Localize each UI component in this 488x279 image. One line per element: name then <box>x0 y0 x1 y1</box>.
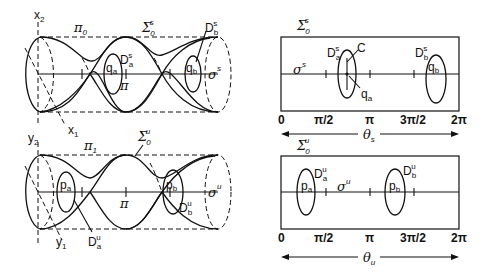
qa-point <box>345 72 348 75</box>
tick-label-0: 0 <box>278 113 285 127</box>
top-left-cylinder: x2 x1 π0 Σ0s Das Dbs qa qb π σs <box>25 8 231 139</box>
tick-label-2pi: 2π <box>451 231 467 245</box>
disk-a-label: Das <box>327 44 341 62</box>
qa-label: qa <box>106 61 118 76</box>
disk-b-label: Dbs <box>415 44 429 62</box>
figure: x2 x1 π0 Σ0s Das Dbs qa qb π σs <box>0 0 488 279</box>
curve-c-label: C <box>357 41 366 55</box>
tick-label-3pi-2: 3π/2 <box>400 231 426 245</box>
disk-a-label: Das <box>120 51 134 69</box>
bottom-right-rect: Σ0u σu Dau Dbu pa pb 0 π/2 π 3π/2 2π θu <box>278 136 467 267</box>
disk-b-label: Dbu <box>403 162 417 180</box>
crossing-curve <box>126 192 162 229</box>
x1-label: x1 <box>68 123 79 139</box>
disk-b-label: Dbs <box>205 19 219 37</box>
disk-b-label: Dbu <box>179 199 193 217</box>
disk-a-leader <box>74 200 92 232</box>
y2-label: y2 <box>28 131 39 147</box>
disk-b-leader <box>196 31 206 62</box>
tick-label-pi-2: π/2 <box>314 231 334 245</box>
sigma0s-label: Σ0s <box>141 18 155 38</box>
pa-label: pa <box>60 178 72 193</box>
tick-label-3pi-2: 3π/2 <box>400 113 426 127</box>
arrowhead-right <box>451 131 459 137</box>
pi-tick-label: π <box>119 78 129 93</box>
arrowhead-right <box>451 254 459 260</box>
arrowhead-left <box>281 254 289 260</box>
theta-u-label: θu <box>363 250 376 267</box>
sigma-u-curve-label: σu <box>208 182 222 200</box>
qb-label: qb <box>428 60 440 75</box>
tick-label-pi-2: π/2 <box>314 113 334 127</box>
surface-upper-curve <box>40 155 218 178</box>
disk-a-label: Dau <box>314 165 328 183</box>
tick-label-pi: π <box>365 113 374 127</box>
pi-tick-label: π <box>119 196 129 211</box>
disk-a-label: Dau <box>88 233 102 251</box>
tick-label-2pi: 2π <box>451 113 467 127</box>
bottom-left-cylinder: y2 y1 π1 Σ0u Dau Dbu pa pb π σu <box>25 127 231 251</box>
sigma0u-label: Σ0u <box>137 127 151 147</box>
tick-label-0: 0 <box>278 231 285 245</box>
pi0-label: π0 <box>73 20 88 37</box>
top-right-rect: Σ0s σs Das C qa Dbs qb 0 π/2 π 3π/2 2π θ… <box>278 16 467 144</box>
sigma-s-curve-label: σs <box>208 64 221 82</box>
arrowhead-left <box>281 131 289 137</box>
pa-label: pa <box>301 179 313 194</box>
sigma0s-label: Σ0s <box>296 16 310 36</box>
y1-label: y1 <box>56 235 67 251</box>
x1-axis <box>25 48 65 125</box>
pi1-label: π1 <box>83 138 97 155</box>
sigma0u-label: Σ0u <box>296 136 310 156</box>
pb-label: pb <box>166 178 178 193</box>
x2-label: x2 <box>34 8 45 24</box>
qa-label: qa <box>361 87 373 103</box>
tick-label-pi: π <box>365 231 374 245</box>
sigma0u-leader <box>135 145 143 156</box>
crossing-curve <box>126 38 210 112</box>
theta-s-label: θs <box>363 127 375 144</box>
qb-label: qb <box>186 61 198 76</box>
pb-label: pb <box>389 179 401 194</box>
